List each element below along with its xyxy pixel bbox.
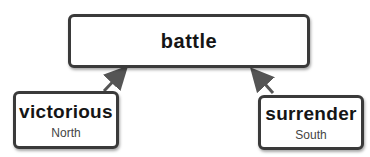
root-node-battle: battle (68, 14, 310, 68)
child-node-surrender: surrender South (258, 95, 364, 150)
root-node-label: battle (161, 30, 217, 53)
arrow-victorious-to-battle (104, 72, 122, 91)
child-node-victorious: victorious North (13, 91, 119, 149)
child-node-label: victorious (19, 101, 113, 123)
arrow-surrender-to-battle (256, 74, 273, 93)
child-node-sublabel: North (51, 126, 80, 140)
child-node-label: surrender (265, 103, 356, 125)
child-node-sublabel: South (295, 128, 326, 142)
